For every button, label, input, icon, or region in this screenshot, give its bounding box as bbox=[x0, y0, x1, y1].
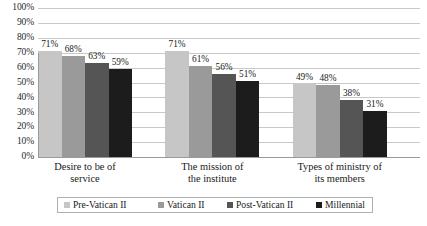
category-label-line: Desire to be of bbox=[25, 161, 145, 173]
y-axis-tick-label: 40% bbox=[0, 93, 34, 103]
y-axis-tick-label: 80% bbox=[0, 33, 34, 43]
axis-baseline bbox=[38, 157, 420, 158]
y-axis-tick-label: 10% bbox=[0, 137, 34, 147]
bar-value-label: 51% bbox=[233, 70, 263, 79]
category-label-line: its members bbox=[280, 173, 400, 185]
legend-swatch-icon bbox=[158, 202, 164, 208]
bar bbox=[85, 63, 109, 157]
legend-label: Post-Vatican II bbox=[236, 200, 293, 210]
y-axis-tick-label: 100% bbox=[0, 3, 34, 13]
y-axis-tick-label: 90% bbox=[0, 18, 34, 28]
bar bbox=[165, 51, 189, 157]
legend-swatch-icon bbox=[64, 202, 70, 208]
legend-item[interactable]: Post-Vatican II bbox=[227, 198, 293, 212]
bar-value-label: 31% bbox=[360, 100, 390, 109]
bar-value-label: 59% bbox=[106, 58, 136, 67]
bar bbox=[109, 69, 133, 157]
gridline bbox=[38, 23, 420, 24]
plot-area: 71%68%63%59%Desire to be ofservice71%61%… bbox=[38, 8, 420, 157]
y-axis-tick-label: 30% bbox=[0, 108, 34, 118]
category-label-line: Types of ministry of bbox=[280, 161, 400, 173]
bar bbox=[363, 111, 387, 157]
category-label: Types of ministry ofits members bbox=[280, 161, 400, 184]
legend-swatch-icon bbox=[316, 202, 322, 208]
bar bbox=[62, 56, 86, 157]
category-label-line: the institute bbox=[152, 173, 272, 185]
bar bbox=[189, 66, 213, 157]
category-label-line: The mission of bbox=[152, 161, 272, 173]
bar-chart: 100%90%80%70%60%50%40%30%20%10%0% 71%68%… bbox=[0, 0, 427, 226]
chart-legend: Pre-Vatican IIVatican IIPost-Vatican IIM… bbox=[57, 197, 373, 213]
category-label-line: service bbox=[25, 173, 145, 185]
bar-value-label: 71% bbox=[162, 40, 192, 49]
legend-item[interactable]: Pre-Vatican II bbox=[64, 198, 127, 212]
gridline bbox=[38, 8, 420, 9]
bar bbox=[236, 81, 260, 157]
category-label: The mission ofthe institute bbox=[152, 161, 272, 184]
y-axis-tick-label: 20% bbox=[0, 122, 34, 132]
bar-value-label: 48% bbox=[313, 74, 343, 83]
y-axis-tick-label: 60% bbox=[0, 63, 34, 73]
legend-item[interactable]: Vatican II bbox=[158, 198, 205, 212]
y-axis-line bbox=[38, 53, 39, 158]
bar-value-label: 38% bbox=[337, 89, 367, 98]
gridline bbox=[38, 38, 420, 39]
y-axis-tick-labels: 100%90%80%70%60%50%40%30%20%10%0% bbox=[0, 0, 34, 226]
legend-item[interactable]: Millennial bbox=[316, 198, 365, 212]
bar bbox=[38, 51, 62, 157]
legend-label: Vatican II bbox=[167, 200, 205, 210]
legend-label: Pre-Vatican II bbox=[73, 200, 127, 210]
y-axis-tick-label: 70% bbox=[0, 48, 34, 58]
legend-label: Millennial bbox=[325, 200, 365, 210]
legend-swatch-icon bbox=[227, 202, 233, 208]
category-label: Desire to be ofservice bbox=[25, 161, 145, 184]
bar bbox=[293, 84, 317, 157]
y-axis-tick-label: 50% bbox=[0, 78, 34, 88]
bar bbox=[212, 74, 236, 157]
